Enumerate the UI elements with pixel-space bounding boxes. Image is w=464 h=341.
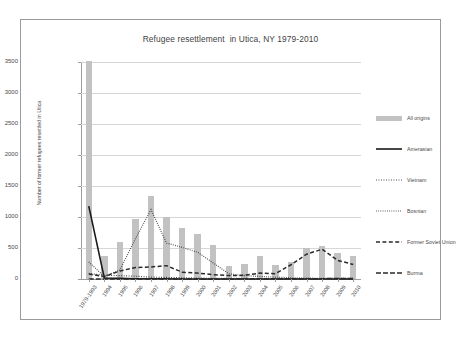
- x-tick-label: 1995: [117, 284, 129, 298]
- x-tick-mark: [213, 279, 214, 282]
- legend-line-icon: [376, 239, 402, 245]
- y-tick-mark: [78, 279, 81, 280]
- x-tick-mark: [198, 279, 199, 282]
- legend-label: Vietnam: [407, 177, 426, 183]
- line-series-group: [81, 62, 361, 279]
- legend-item: Burma: [376, 270, 462, 301]
- x-tick-mark: [89, 279, 90, 282]
- x-tick-mark: [338, 279, 339, 282]
- legend-line-icon: [376, 270, 402, 276]
- plot-area: 0500100015002000250030003500 1979-199319…: [81, 62, 361, 279]
- legend-item: All origins: [376, 115, 462, 146]
- x-tick-mark: [307, 279, 308, 282]
- legend-label: Amerasian: [407, 146, 432, 152]
- x-tick-mark: [275, 279, 276, 282]
- x-tick-mark: [229, 279, 230, 282]
- x-tick-mark: [151, 279, 152, 282]
- x-tick-label: 2003: [241, 284, 253, 298]
- x-tick-label: 2009: [335, 284, 347, 298]
- x-tick-label: 1999: [179, 284, 191, 298]
- y-tick-label: 1500: [0, 182, 18, 188]
- legend-line-icon: [376, 208, 402, 214]
- x-tick-label: 2007: [303, 284, 315, 298]
- legend-item: Vietnam: [376, 177, 462, 208]
- x-tick-mark: [104, 279, 105, 282]
- legend-line-icon: [376, 146, 402, 152]
- y-tick-label: 500: [0, 244, 18, 250]
- x-tick-label: 1994: [101, 284, 113, 298]
- y-tick-label: 2000: [0, 151, 18, 157]
- x-tick-label: 2000: [195, 284, 207, 298]
- x-tick-mark: [167, 279, 168, 282]
- x-tick-label: 1998: [163, 284, 175, 298]
- line-series: [89, 206, 353, 279]
- line-series: [89, 249, 353, 276]
- legend-label: All origins: [407, 115, 430, 121]
- x-tick-mark: [291, 279, 292, 282]
- x-tick-mark: [182, 279, 183, 282]
- x-tick-label: 2010: [350, 284, 362, 298]
- x-tick-label: 2002: [226, 284, 238, 298]
- line-series: [89, 210, 353, 279]
- y-axis-label: Number of former refugees resettled in U…: [36, 73, 42, 233]
- x-tick-label: 2004: [257, 284, 269, 298]
- x-tick-label: 1996: [132, 284, 144, 298]
- legend-item: Amerasian: [376, 146, 462, 177]
- y-tick-label: 2500: [0, 120, 18, 126]
- x-tick-mark: [244, 279, 245, 282]
- legend-item: Former Soviet Union: [376, 239, 462, 270]
- x-tick-mark: [353, 279, 354, 282]
- y-tick-label: 3500: [0, 58, 18, 64]
- x-tick-mark: [120, 279, 121, 282]
- y-tick-label: 0: [0, 275, 18, 281]
- x-tick-label: 1979-1993: [77, 284, 97, 309]
- legend-label: Bosnian: [407, 208, 426, 214]
- x-tick-mark: [322, 279, 323, 282]
- x-tick-label: 2005: [272, 284, 284, 298]
- x-tick-label: 2001: [210, 284, 222, 298]
- chart-frame: Refugee resettlement in Utica, NY 1979-2…: [20, 19, 441, 320]
- legend-swatch-icon: [376, 116, 402, 121]
- x-tick-label: 2006: [288, 284, 300, 298]
- x-tick-label: 2008: [319, 284, 331, 298]
- legend-line-icon: [376, 177, 402, 183]
- legend-label: Burma: [407, 270, 423, 276]
- legend-item: Bosnian: [376, 208, 462, 239]
- x-tick-mark: [135, 279, 136, 282]
- y-tick-label: 3000: [0, 89, 18, 95]
- x-tick-label: 1997: [148, 284, 160, 298]
- y-tick-label: 1000: [0, 213, 18, 219]
- chart-legend: All originsAmerasianVietnamBosnianFormer…: [376, 115, 462, 301]
- x-tick-mark: [260, 279, 261, 282]
- legend-label: Former Soviet Union: [407, 239, 456, 245]
- chart-title: Refugee resettlement in Utica, NY 1979-2…: [21, 34, 440, 44]
